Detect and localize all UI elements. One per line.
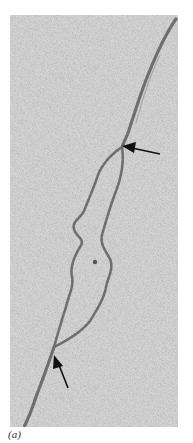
- particle: [93, 260, 97, 264]
- electron-micrograph: [10, 15, 178, 427]
- grain-texture: [10, 15, 178, 427]
- panel-label: (a): [8, 428, 21, 440]
- micrograph-graphic: [10, 15, 178, 427]
